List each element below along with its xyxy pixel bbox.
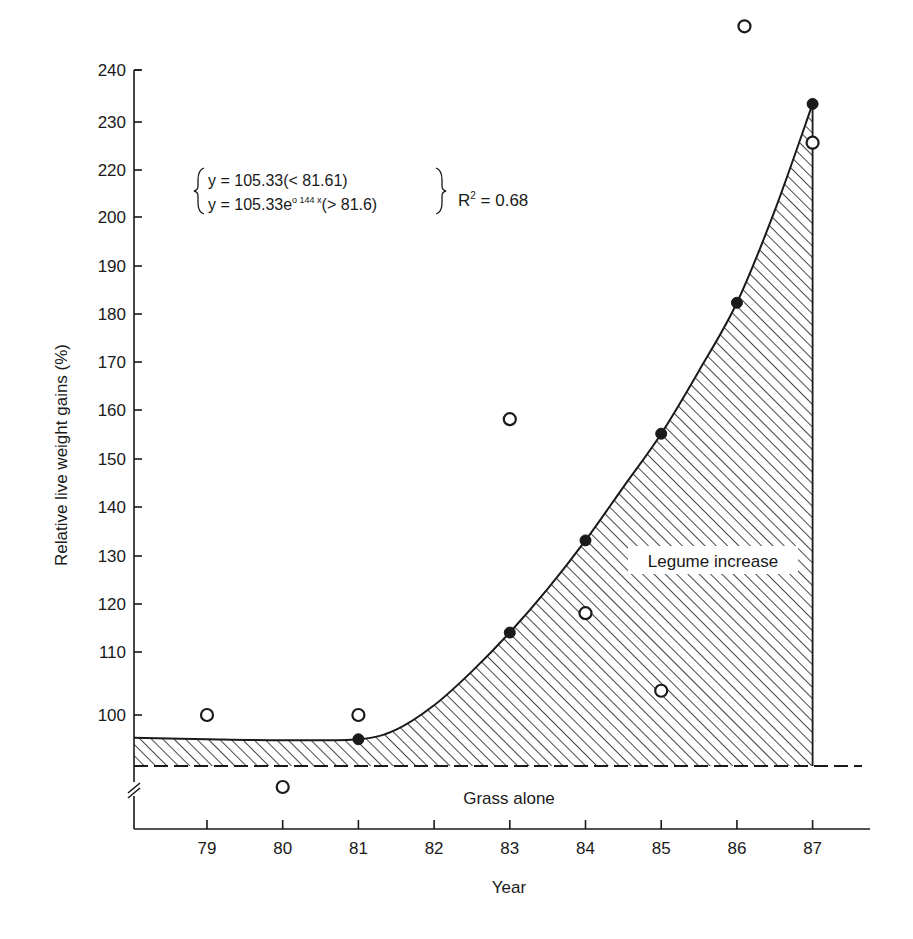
open-data-point xyxy=(504,413,516,425)
y-axis-title: Relative live weight gains (%) xyxy=(52,344,71,566)
open-data-point xyxy=(201,709,213,721)
x-tick-label: 81 xyxy=(349,839,368,858)
x-tick-label: 84 xyxy=(576,839,595,858)
y-tick-label: 220 xyxy=(98,161,126,180)
y-tick-label: 180 xyxy=(98,305,126,324)
filled-data-point xyxy=(656,428,667,439)
y-tick-label: 240 xyxy=(98,61,126,80)
x-tick-label: 86 xyxy=(727,839,746,858)
grass-alone-label: Grass alone xyxy=(463,789,555,808)
filled-data-point xyxy=(807,98,818,109)
left-brace-icon xyxy=(194,168,204,214)
open-data-point xyxy=(655,685,667,697)
plot-area xyxy=(134,20,862,793)
y-tick-label: 100 xyxy=(98,706,126,725)
chart: 2402302202001901801701601501401301201101… xyxy=(0,0,913,939)
x-tick-label: 79 xyxy=(198,839,217,858)
y-ticks: 2402302202001901801701601501401301201101… xyxy=(98,61,142,725)
y-tick-label: 170 xyxy=(98,353,126,372)
legume-increase-label: Legume increase xyxy=(648,552,778,571)
x-tick-label: 85 xyxy=(652,839,671,858)
axis-break-icon xyxy=(128,783,140,798)
y-tick-label: 150 xyxy=(98,450,126,469)
filled-data-point xyxy=(580,535,591,546)
y-tick-label: 110 xyxy=(99,643,126,662)
equation-line-2: y = 105.33eo 144 x(> 81.6) xyxy=(208,195,377,213)
open-data-point xyxy=(807,137,819,149)
filled-data-point xyxy=(731,297,742,308)
equation-line-1: y = 105.33(< 81.61) xyxy=(208,172,348,189)
open-data-point xyxy=(580,607,592,619)
x-tick-label: 80 xyxy=(273,839,292,858)
y-tick-label: 120 xyxy=(98,595,126,614)
x-tick-label: 82 xyxy=(425,839,444,858)
x-tick-label: 87 xyxy=(803,839,822,858)
equation-annotation: y = 105.33(< 81.61) y = 105.33eo 144 x(>… xyxy=(194,168,528,214)
right-brace-icon xyxy=(436,168,446,214)
open-data-point xyxy=(352,709,364,721)
x-axis-title: Year xyxy=(492,878,527,897)
y-tick-label: 130 xyxy=(98,547,126,566)
filled-data-point xyxy=(353,734,364,745)
y-tick-label: 140 xyxy=(98,498,126,517)
y-tick-label: 160 xyxy=(98,401,126,420)
y-tick-label: 230 xyxy=(98,113,126,132)
y-tick-label: 190 xyxy=(98,257,126,276)
r-squared-label: R2 = 0.68 xyxy=(458,190,528,210)
x-tick-label: 83 xyxy=(500,839,519,858)
filled-data-point xyxy=(504,627,515,638)
y-tick-label: 200 xyxy=(98,208,126,227)
open-data-point xyxy=(277,781,289,793)
x-ticks: 798081828384858687 xyxy=(198,820,823,858)
open-data-point xyxy=(738,20,750,32)
